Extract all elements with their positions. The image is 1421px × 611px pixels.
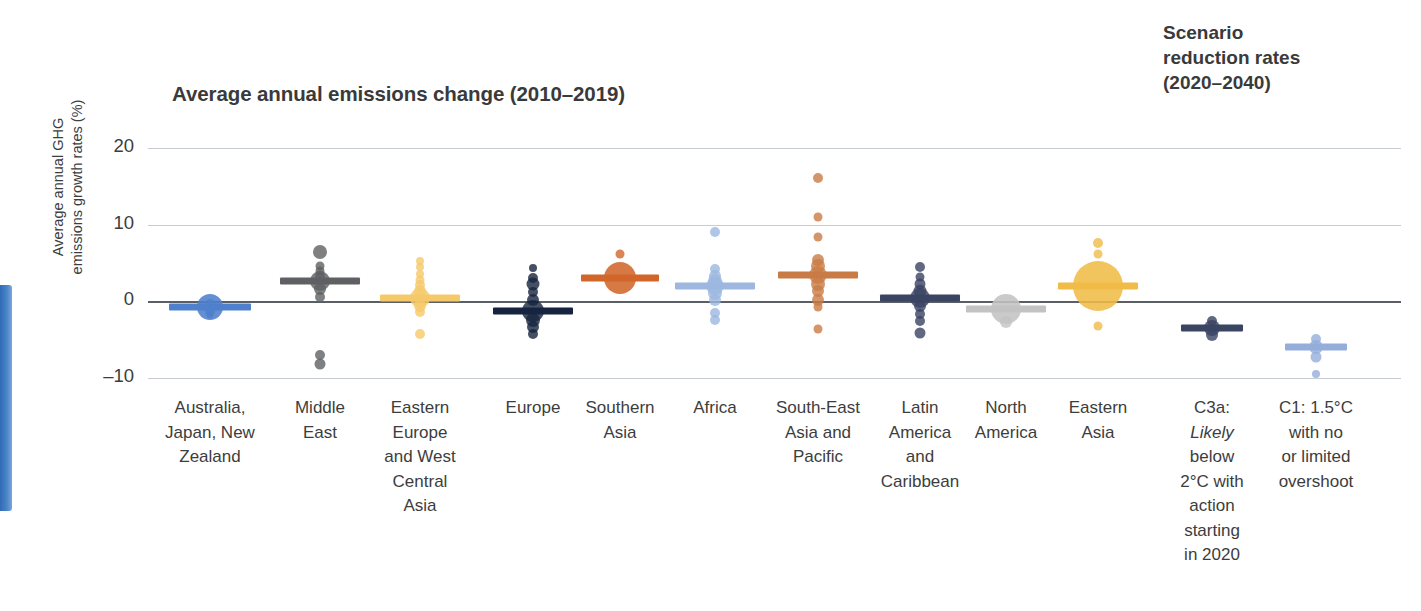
data-point — [710, 315, 720, 325]
x-axis-label-line: Middle — [268, 396, 372, 421]
x-axis-label-line: Central — [364, 470, 476, 495]
x-axis-label-line: Africa — [663, 396, 767, 421]
y-axis-label: Average annual GHG emissions growth rate… — [49, 77, 87, 297]
gridline-20 — [148, 148, 1401, 149]
x-axis-label-line: Caribbean — [862, 470, 978, 495]
data-point — [709, 294, 721, 306]
x-axis-label: EasternAsia — [1046, 396, 1150, 445]
x-axis-label-line: below — [1158, 445, 1266, 470]
data-point — [813, 173, 823, 183]
scenario-section-title: Scenario reduction rates (2020–2040) — [1163, 20, 1413, 95]
median-marker — [1058, 283, 1138, 290]
x-axis-label-line: Europe — [364, 421, 476, 446]
x-axis-label-line: Australia, — [146, 396, 274, 421]
chart-title: Average annual emissions change (2010–20… — [172, 82, 625, 106]
data-point — [1093, 238, 1103, 248]
x-axis-label-line: Southern — [564, 396, 676, 421]
x-axis-label: South-EastAsia andPacific — [760, 396, 876, 470]
x-axis-label-line: and West — [364, 445, 476, 470]
x-axis-label: C1: 1.5°Cwith noor limitedovershoot — [1260, 396, 1372, 494]
x-axis-label: MiddleEast — [268, 396, 372, 445]
gridline--10 — [148, 378, 1401, 379]
x-axis-label-line: overshoot — [1260, 470, 1372, 495]
x-axis-label: Australia,Japan, NewZealand — [146, 396, 274, 470]
x-axis-label-line: C1: 1.5°C — [1260, 396, 1372, 421]
x-axis-labels: Australia,Japan, NewZealandMiddleEastEas… — [148, 396, 1401, 611]
x-axis-label-line: action — [1158, 494, 1266, 519]
zero-line — [148, 301, 1401, 303]
x-axis-label-line: in 2020 — [1158, 543, 1266, 568]
median-marker — [280, 278, 360, 285]
data-point — [814, 303, 823, 312]
x-axis-label-line: C3a: — [1158, 396, 1266, 421]
x-axis-label-line: Asia — [364, 494, 476, 519]
x-axis-label: SouthernAsia — [564, 396, 676, 445]
chart-root: Average annual emissions change (2010–20… — [0, 0, 1421, 611]
x-axis-label-line: 2°C with — [1158, 470, 1266, 495]
median-marker — [581, 274, 659, 281]
x-axis-label-line: or limited — [1260, 445, 1372, 470]
x-axis-label-line: East — [268, 421, 372, 446]
x-axis-label-line: Asia and — [760, 421, 876, 446]
data-point — [1312, 370, 1320, 378]
median-marker — [778, 272, 858, 279]
data-point — [814, 324, 823, 333]
x-axis-label-line: Zealand — [146, 445, 274, 470]
data-point — [1094, 249, 1103, 258]
data-point — [814, 232, 823, 241]
x-axis-label-line: Japan, New — [146, 421, 274, 446]
scenario-title-line-3: (2020–2040) — [1163, 70, 1413, 95]
data-point — [1000, 316, 1012, 328]
median-marker — [1285, 344, 1347, 351]
median-marker — [380, 295, 460, 302]
data-point — [915, 262, 925, 272]
x-axis-label-line: starting — [1158, 519, 1266, 544]
median-marker — [880, 294, 960, 301]
median-marker — [966, 306, 1046, 313]
x-axis-label: NorthAmerica — [952, 396, 1060, 445]
scenario-title-line-1: Scenario — [1163, 20, 1413, 45]
data-point — [315, 292, 325, 302]
x-axis-label: C3a:Likelybelow2°C withactionstartingin … — [1158, 396, 1266, 568]
x-axis-label-line: Eastern — [364, 396, 476, 421]
gridline-10 — [148, 225, 1401, 226]
data-point — [915, 316, 925, 326]
data-point — [315, 359, 326, 370]
page-edge-accent-bar — [0, 285, 12, 511]
data-point — [529, 264, 537, 272]
data-point — [814, 213, 823, 222]
data-point — [313, 245, 327, 259]
median-marker — [169, 303, 251, 310]
data-point — [207, 312, 214, 319]
data-point — [710, 227, 720, 237]
y-tick-label-10: 10 — [78, 212, 134, 234]
scenario-title-line-2: reduction rates — [1163, 45, 1413, 70]
y-axis-label-line-2: emissions growth rates (%) — [68, 77, 87, 297]
median-marker — [493, 308, 573, 315]
x-axis-label: EasternEuropeand WestCentralAsia — [364, 396, 476, 519]
data-point — [1094, 321, 1103, 330]
y-tick-label-20: 20 — [78, 135, 134, 157]
x-axis-label-line: North — [952, 396, 1060, 421]
x-axis-label-line: Asia — [1046, 421, 1150, 446]
x-axis-label: Africa — [663, 396, 767, 421]
x-axis-label-line: Eastern — [1046, 396, 1150, 421]
data-point — [415, 307, 425, 317]
data-point — [616, 249, 625, 258]
data-point — [1311, 351, 1322, 362]
x-axis-label-line: Likely — [1158, 421, 1266, 446]
x-axis-label-line: Pacific — [760, 445, 876, 470]
data-point — [528, 329, 538, 339]
plot-area — [148, 148, 1401, 378]
median-marker — [1181, 325, 1243, 332]
data-point — [915, 327, 926, 338]
y-tick-label-0: 0 — [78, 288, 134, 310]
median-marker — [675, 283, 755, 290]
y-axis-label-line-1: Average annual GHG — [49, 77, 68, 297]
x-axis-label-line: America — [952, 421, 1060, 446]
y-tick-label-minus10: –10 — [78, 365, 134, 387]
x-axis-label-line: and — [862, 445, 978, 470]
x-axis-label-line: South-East — [760, 396, 876, 421]
x-axis-label-line: Asia — [564, 421, 676, 446]
x-axis-label-line: with no — [1260, 421, 1372, 446]
